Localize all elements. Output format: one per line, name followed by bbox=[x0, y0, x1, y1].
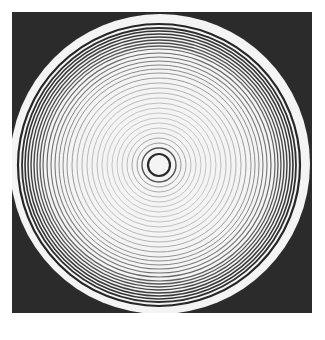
ring-pattern-photo bbox=[12, 12, 312, 313]
figure-caption bbox=[12, 333, 312, 340]
interference-rings bbox=[12, 12, 312, 313]
bright-disc bbox=[12, 14, 310, 313]
